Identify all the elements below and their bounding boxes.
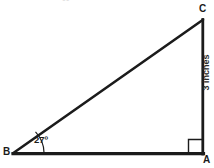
right-angle-marker-icon <box>189 140 203 154</box>
side-length-label: 3 inches <box>202 43 211 103</box>
triangle-svg <box>0 0 214 168</box>
vertex-label-c: C <box>199 4 206 14</box>
triangle-figure: •• C A B 27º 3 inches <box>0 0 214 168</box>
angle-measure-label: 27º <box>34 135 48 145</box>
vertex-label-a: A <box>203 155 210 165</box>
vertex-label-b: B <box>3 147 10 157</box>
top-edge-cut-off-text: •• <box>62 0 70 5</box>
